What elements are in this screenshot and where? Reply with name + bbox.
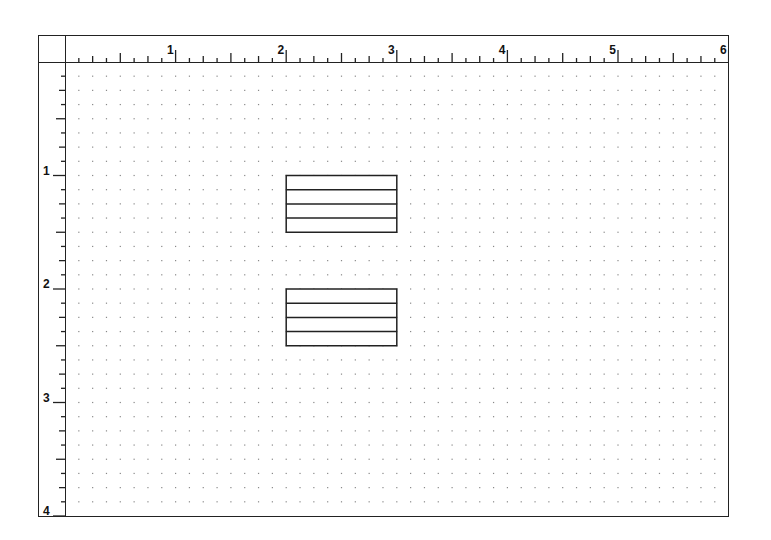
ruler-label-h: 2: [278, 43, 285, 57]
ruler-divider-horizontal: [38, 62, 729, 63]
table-box-2[interactable]: [286, 289, 397, 346]
table-box-1[interactable]: [286, 176, 397, 233]
ruler-label-v: 4: [43, 504, 50, 517]
ruler-label-v: 1: [43, 164, 50, 178]
ruler-label-v: 2: [43, 277, 50, 291]
ruler-label-h: 4: [499, 43, 506, 57]
ruler-origin-corner[interactable]: [38, 35, 65, 62]
drawing-canvas[interactable]: [65, 62, 729, 517]
vertical-ruler[interactable]: 1234: [38, 62, 65, 517]
ruler-divider-vertical: [65, 35, 66, 517]
ruler-label-h: 3: [388, 43, 395, 57]
horizontal-ruler[interactable]: 123456: [65, 35, 729, 62]
ruler-label-h: 5: [609, 43, 616, 57]
ruler-label-h: 1: [167, 43, 174, 57]
ruler-label-v: 3: [43, 391, 50, 405]
ruler-label-h: 6: [720, 43, 727, 57]
